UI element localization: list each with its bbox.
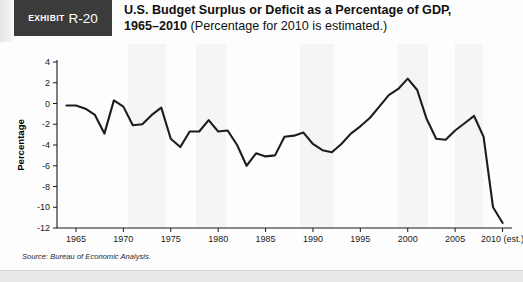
exhibit-badge: Exhibit R-20 — [14, 0, 112, 36]
y-axis-ticks: 420-2-4-6-8-10-12 — [37, 57, 57, 233]
title-years: 1965–2010 — [124, 19, 187, 33]
y-axis-title: Percentage — [15, 119, 26, 171]
chart-axes — [57, 60, 512, 228]
svg-text:2005: 2005 — [445, 234, 465, 244]
svg-text:2: 2 — [45, 78, 50, 88]
svg-text:2000: 2000 — [398, 234, 418, 244]
svg-text:1970: 1970 — [113, 234, 133, 244]
exhibit-label: Exhibit — [28, 13, 64, 23]
svg-text:-8: -8 — [42, 182, 50, 192]
svg-text:-12: -12 — [37, 223, 50, 233]
x-axis-ticks: 1965197019751980198519901995200020052010… — [66, 228, 523, 244]
svg-text:-10: -10 — [37, 202, 50, 212]
title-line-1: U.S. Budget Surplus or Deficit as a Perc… — [124, 2, 516, 18]
svg-text:4: 4 — [45, 57, 50, 67]
exhibit-number: R-20 — [69, 11, 98, 26]
svg-text:1995: 1995 — [350, 234, 370, 244]
svg-text:1980: 1980 — [208, 234, 228, 244]
svg-text:-6: -6 — [42, 161, 50, 171]
title-subnote: (Percentage for 2010 is estimated.) — [191, 19, 388, 33]
svg-text:1975: 1975 — [161, 234, 181, 244]
line-chart: 420-2-4-6-8-10-12 1965197019751980198519… — [0, 44, 523, 244]
source-note: Source: Bureau of Economic Analysis. — [22, 252, 151, 261]
svg-text:1985: 1985 — [256, 234, 276, 244]
svg-text:2010 (est.): 2010 (est.) — [481, 234, 523, 244]
exhibit-header: Exhibit R-20 U.S. Budget Surplus or Defi… — [0, 0, 523, 42]
svg-text:-2: -2 — [42, 119, 50, 129]
svg-text:-4: -4 — [42, 140, 50, 150]
page-footer-rule — [0, 270, 523, 282]
svg-text:1990: 1990 — [303, 234, 323, 244]
title-line-2: 1965–2010 (Percentage for 2010 is estima… — [124, 18, 516, 34]
svg-text:0: 0 — [45, 99, 50, 109]
chart-container: 420-2-4-6-8-10-12 1965197019751980198519… — [0, 44, 523, 244]
svg-text:1965: 1965 — [66, 234, 86, 244]
page-title: U.S. Budget Surplus or Deficit as a Perc… — [124, 2, 516, 34]
title-line-1-text: U.S. Budget Surplus or Deficit as a Perc… — [124, 3, 451, 17]
